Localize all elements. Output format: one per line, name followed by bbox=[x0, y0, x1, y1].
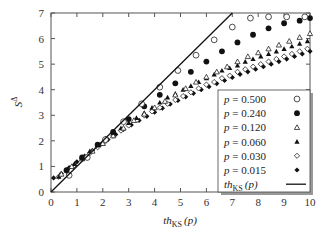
x-tick-label: 2 bbox=[100, 196, 106, 208]
filled-triangle-marker bbox=[274, 49, 279, 54]
open-circle-marker bbox=[284, 14, 290, 20]
legend-label: p = 0.120 bbox=[223, 121, 266, 133]
filled-triangle-marker bbox=[250, 56, 255, 61]
filled-triangle-marker bbox=[305, 39, 310, 44]
y-tick-label: 2 bbox=[39, 135, 45, 147]
x-axis-title-arg: (p) bbox=[184, 214, 197, 227]
y-tick-label: 6 bbox=[39, 33, 45, 45]
x-tick-label: 3 bbox=[126, 196, 132, 208]
x-axis-title: thKS(p) bbox=[163, 214, 197, 229]
filled-circle-marker bbox=[266, 25, 272, 31]
legend-label: p = 0.060 bbox=[223, 136, 266, 148]
open-triangle-marker bbox=[245, 54, 250, 59]
y-tick-label: 7 bbox=[39, 7, 45, 19]
filled-triangle-marker bbox=[282, 46, 287, 51]
y-tick-label: 5 bbox=[39, 58, 45, 70]
open-triangle-marker bbox=[225, 64, 230, 69]
filled-circle-marker bbox=[157, 92, 163, 98]
filled-triangle-marker bbox=[188, 83, 193, 88]
filled-circle-marker bbox=[172, 80, 178, 86]
legend-label: p = 0.015 bbox=[223, 164, 266, 176]
open-circle-marker bbox=[302, 14, 308, 20]
open-triangle-marker bbox=[297, 35, 302, 40]
y-tick-label: 4 bbox=[39, 84, 45, 96]
legend-label: p = 0.240 bbox=[223, 107, 266, 119]
x-tick-label: 1 bbox=[74, 196, 80, 208]
x-tick-label: 9 bbox=[281, 196, 287, 208]
open-triangle-marker bbox=[256, 50, 261, 55]
scatter-chart: 012345678910 01234567 p = 0.500p = 0.240… bbox=[0, 0, 328, 233]
x-tick-label: 5 bbox=[178, 196, 184, 208]
x-tick-label: 10 bbox=[305, 196, 317, 208]
legend: p = 0.500p = 0.240p = 0.120p = 0.060p = … bbox=[218, 90, 313, 195]
filled-triangle-marker bbox=[266, 51, 271, 56]
open-circle-marker bbox=[211, 37, 217, 43]
x-axis-title-sub: KS bbox=[172, 220, 182, 229]
filled-triangle-marker bbox=[297, 41, 302, 46]
filled-circle-marker bbox=[188, 69, 194, 75]
open-circle-marker bbox=[294, 96, 300, 102]
filled-triangle-marker bbox=[157, 100, 162, 105]
open-triangle-marker bbox=[276, 42, 281, 47]
legend-label: p = 0.030 bbox=[223, 150, 266, 162]
y-axis-title: SΔ bbox=[10, 97, 24, 108]
filled-triangle-marker bbox=[289, 44, 294, 49]
filled-circle-marker bbox=[204, 59, 210, 65]
open-triangle-marker bbox=[307, 31, 312, 36]
open-circle-marker bbox=[193, 52, 199, 58]
filled-circle-marker bbox=[250, 32, 256, 38]
filled-triangle-marker bbox=[219, 68, 224, 73]
filled-circle-marker bbox=[281, 20, 287, 26]
filled-circle-marker bbox=[235, 40, 241, 46]
filled-triangle-marker bbox=[165, 95, 170, 100]
y-tick-label: 0 bbox=[39, 186, 45, 198]
open-triangle-marker bbox=[183, 86, 188, 91]
x-tick-label: 6 bbox=[204, 196, 210, 208]
x-tick-label: 0 bbox=[48, 196, 54, 208]
y-tick-label: 1 bbox=[39, 160, 45, 172]
filled-triangle-marker bbox=[243, 59, 248, 64]
open-triangle-marker bbox=[235, 59, 240, 64]
legend-label: p = 0.500 bbox=[223, 93, 266, 105]
filled-circle-marker bbox=[297, 18, 303, 24]
y-axis-title-sup: Δ bbox=[10, 97, 19, 102]
series-line bbox=[51, 13, 232, 192]
filled-diamond-marker bbox=[51, 175, 56, 180]
open-circle-marker bbox=[229, 24, 235, 30]
open-circle-marker bbox=[266, 14, 272, 20]
y-tick-label: 3 bbox=[39, 109, 45, 121]
filled-circle-marker bbox=[294, 110, 300, 116]
x-tick-label: 7 bbox=[230, 196, 236, 208]
open-triangle-marker bbox=[214, 69, 219, 74]
open-triangle-marker bbox=[287, 39, 292, 44]
th-ks-line bbox=[51, 13, 232, 192]
x-tick-label: 4 bbox=[152, 196, 158, 208]
x-tick-label: 8 bbox=[255, 196, 261, 208]
open-triangle-marker bbox=[266, 46, 271, 51]
open-triangle-marker bbox=[204, 74, 209, 79]
filled-circle-marker bbox=[219, 48, 225, 54]
open-circle-marker bbox=[248, 15, 254, 21]
